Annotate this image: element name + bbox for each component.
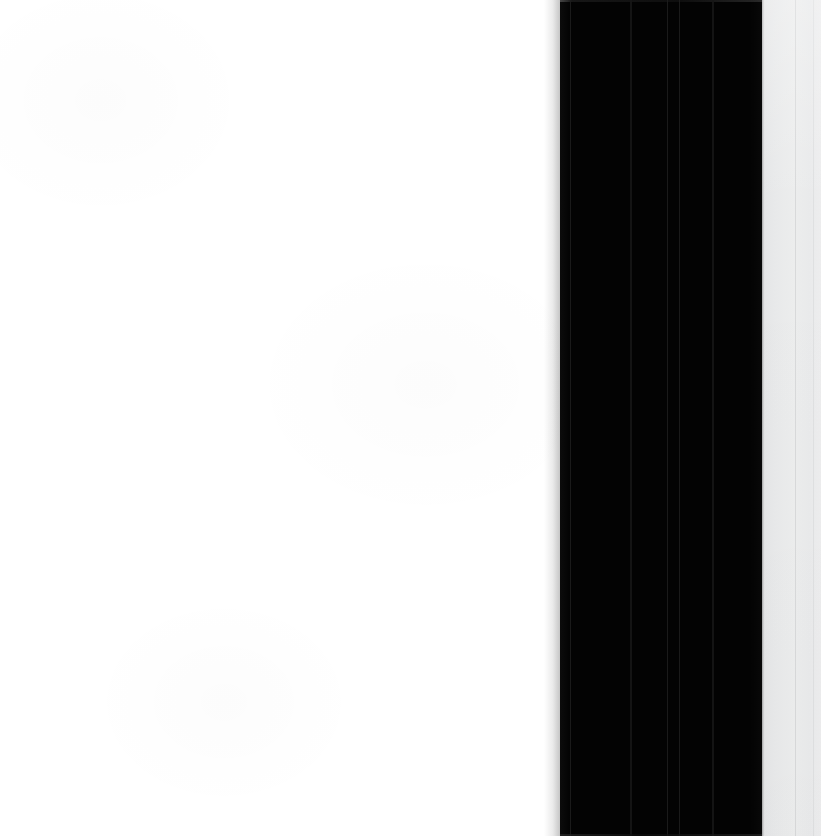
black-panel-seam-5: [712, 0, 714, 836]
black-panel-seam-3: [667, 0, 668, 836]
gray-panel-left-hairline: [762, 0, 765, 836]
gray-panel-divider-2: [813, 0, 814, 836]
black-panel-top-rim: [560, 0, 762, 2]
black-panel-edge-shading: [560, 0, 762, 836]
black-panel-seam-1: [570, 0, 571, 836]
gray-panel-divider-1: [795, 0, 796, 836]
gray-side-panel: [762, 0, 821, 836]
white-content-surface: [0, 0, 560, 836]
black-panel-seam-2: [630, 0, 632, 836]
black-vertical-panel: [560, 0, 762, 836]
white-surface-right-edge-shading: [544, 0, 560, 836]
black-panel-seam-4: [679, 0, 680, 836]
screenshot-canvas: [0, 0, 821, 836]
